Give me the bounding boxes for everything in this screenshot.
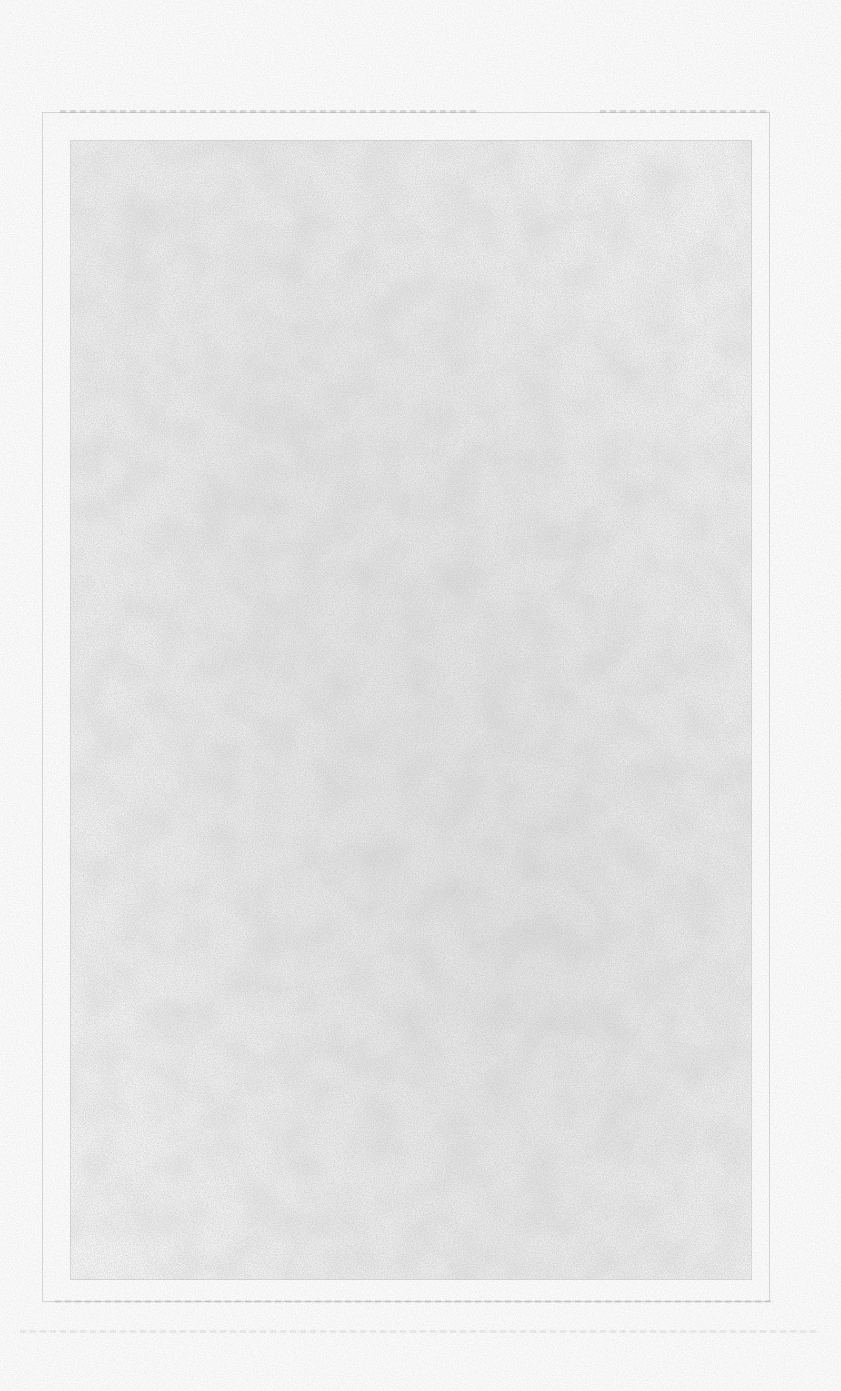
- bleed-through-mark-top-right: [600, 110, 770, 113]
- inner-border-frame: [70, 140, 752, 1280]
- bleed-through-mark-top: [60, 110, 480, 113]
- scanned-page: [0, 0, 841, 1391]
- bleed-through-mark-bottom: [55, 1300, 775, 1303]
- bleed-through-mark-bottom-2: [20, 1330, 820, 1333]
- page-text: [0, 0, 1, 1]
